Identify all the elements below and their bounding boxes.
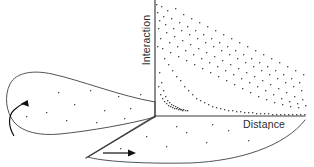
scatter-point bbox=[305, 105, 306, 106]
scatter-point bbox=[220, 108, 221, 109]
scatter-point bbox=[229, 54, 230, 55]
scatter-point bbox=[201, 58, 202, 59]
scatter-point bbox=[171, 104, 172, 105]
scatter-point bbox=[196, 98, 197, 99]
scatter-point bbox=[254, 76, 255, 77]
scatter-point bbox=[288, 114, 289, 115]
scatter-point bbox=[163, 90, 164, 91]
scatter-point bbox=[222, 60, 223, 61]
scatter-point bbox=[214, 56, 215, 57]
scatter-point bbox=[163, 16, 164, 17]
scatter-point bbox=[216, 107, 217, 108]
scatter-point bbox=[236, 111, 237, 112]
scatter-point bbox=[182, 110, 183, 111]
interaction-axis-label: Interaction bbox=[140, 15, 152, 66]
scatter-point bbox=[170, 52, 171, 53]
scatter-point bbox=[197, 38, 198, 39]
scatter-point bbox=[298, 107, 299, 108]
scatter-point bbox=[188, 90, 189, 91]
scatter-point bbox=[192, 94, 193, 95]
scatter-point bbox=[304, 114, 305, 115]
scatter-point bbox=[224, 109, 225, 110]
scatter-point bbox=[260, 113, 261, 114]
scatter-point bbox=[227, 46, 228, 47]
scatter-point bbox=[263, 54, 264, 55]
scatter-point bbox=[156, 4, 157, 5]
scatter-point bbox=[283, 74, 284, 75]
scatter-point bbox=[303, 74, 304, 75]
scatter-point bbox=[164, 101, 165, 102]
scatter-point bbox=[175, 106, 176, 107]
scatter-point bbox=[193, 54, 194, 55]
scatter-point bbox=[301, 90, 302, 91]
diagram-canvas: Interaction Distance bbox=[0, 0, 314, 167]
scatter-point bbox=[302, 99, 303, 100]
scatter-point bbox=[170, 106, 171, 107]
scatter-point bbox=[195, 30, 196, 31]
rotation-arrow-head bbox=[21, 98, 31, 107]
scatter-point bbox=[245, 62, 246, 63]
scatter-point bbox=[183, 14, 184, 15]
scatter-point bbox=[225, 70, 226, 71]
scatter-point bbox=[210, 72, 211, 73]
scatter-point bbox=[241, 78, 242, 79]
scatter-point bbox=[253, 66, 254, 67]
translation-arrow bbox=[103, 150, 136, 157]
scatter-point bbox=[280, 114, 281, 115]
scatter-point bbox=[158, 86, 159, 87]
scatter-point bbox=[173, 105, 174, 106]
scatter-point bbox=[228, 110, 229, 111]
scatter-point bbox=[185, 50, 186, 51]
scatter-point bbox=[270, 84, 271, 85]
scatter-point bbox=[167, 10, 168, 11]
scatter-point bbox=[189, 34, 190, 35]
scatter-point bbox=[168, 64, 169, 65]
scatter-point bbox=[221, 50, 222, 51]
left-lobe-outline bbox=[7, 72, 155, 134]
scatter-point bbox=[290, 106, 291, 107]
scatter-point bbox=[208, 104, 209, 105]
scatter-point bbox=[267, 66, 268, 67]
scatter-cloud bbox=[156, 4, 306, 115]
scatter-point bbox=[223, 34, 224, 35]
scatter-point bbox=[178, 56, 179, 57]
scatter-point bbox=[175, 8, 176, 9]
scatter-point bbox=[176, 76, 177, 77]
scatter-point bbox=[242, 88, 243, 89]
scatter-point bbox=[181, 30, 182, 31]
scatter-point bbox=[277, 78, 278, 79]
scatter-point bbox=[176, 108, 177, 109]
scatter-point bbox=[217, 66, 218, 67]
scatter-point bbox=[258, 96, 259, 97]
scatter-point bbox=[252, 112, 253, 113]
scatter-point bbox=[218, 76, 219, 77]
scatter-point bbox=[279, 62, 280, 63]
scatter-point bbox=[300, 114, 301, 115]
scatter-point bbox=[178, 109, 179, 110]
scatter-point bbox=[194, 64, 195, 65]
scatter-point bbox=[265, 90, 266, 91]
scatter-point bbox=[264, 113, 265, 114]
scatter-point bbox=[292, 114, 293, 115]
scatter-point bbox=[282, 104, 283, 105]
scatter-point bbox=[162, 48, 163, 49]
scatter-point bbox=[295, 70, 296, 71]
scatter-point bbox=[287, 66, 288, 67]
scatter-point bbox=[171, 18, 172, 19]
scatter-point bbox=[219, 42, 220, 43]
scatter-point bbox=[284, 114, 285, 115]
scatter-point bbox=[203, 34, 204, 35]
scatter-point bbox=[240, 111, 241, 112]
scatter-point bbox=[275, 70, 276, 71]
scatter-point bbox=[250, 92, 251, 93]
scatter-point bbox=[164, 58, 165, 59]
scatter-point bbox=[215, 30, 216, 31]
scatter-point bbox=[266, 99, 267, 100]
scatter-point bbox=[185, 110, 186, 111]
scatter-point bbox=[198, 48, 199, 49]
scatter-point bbox=[167, 100, 168, 101]
scatter-point bbox=[230, 64, 231, 65]
scatter-point bbox=[207, 26, 208, 27]
scatter-point bbox=[190, 44, 191, 45]
scatter-point bbox=[226, 80, 227, 81]
